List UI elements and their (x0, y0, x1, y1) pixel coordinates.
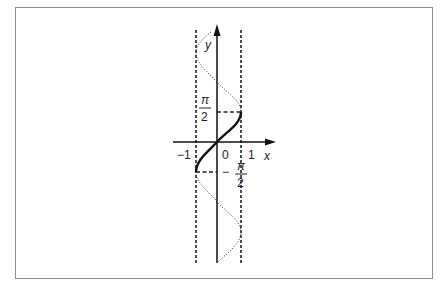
x-axis-arrow-icon (265, 139, 276, 146)
origin-label: 0 (222, 148, 229, 162)
tick-label-one: 1 (248, 148, 255, 162)
y-axis-arrow-icon (214, 24, 221, 36)
minus-pi-half-sign: − (222, 165, 229, 179)
minus-pi-half-numerator: π (237, 159, 246, 173)
tick-label-minus-one: −1 (177, 148, 191, 162)
y-axis-label: y (204, 38, 212, 52)
pi-half-denominator: 2 (201, 110, 208, 124)
arcsin-diagram: y x 0 −1 1 π 2 − π 2 (0, 0, 442, 288)
pi-half-numerator: π (201, 93, 210, 107)
dotted-curve-sin (196, 32, 241, 262)
x-axis-label: x (263, 149, 271, 163)
minus-pi-half-denominator: 2 (237, 176, 244, 190)
